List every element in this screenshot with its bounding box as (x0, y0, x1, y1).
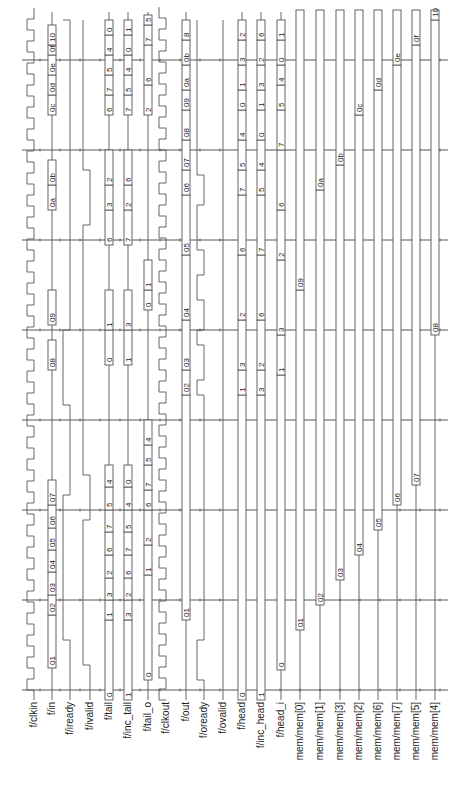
bus-value: 3 (238, 362, 247, 367)
time-grid (22, 59, 448, 692)
bus-value: 1 (257, 692, 266, 697)
bus-value: 7 (105, 87, 114, 92)
bus-value: 1 (124, 357, 133, 362)
bus-value: 01 (296, 618, 305, 627)
bus-value: 4 (124, 502, 133, 507)
bus-value: 08 (48, 358, 57, 367)
bus-value: 2 (105, 570, 114, 575)
bus-value: 03 (182, 358, 191, 367)
bus-value-segment (296, 10, 304, 290)
bus-value: 02 (316, 593, 325, 602)
bus-value: 03 (48, 583, 57, 592)
bus-value: 4 (257, 162, 266, 167)
signal-label: f/inc_head (255, 702, 266, 748)
clock-trace (159, 7, 166, 700)
signal-mem-mem-1-: 020a (316, 10, 325, 700)
signal-f-head-i: 0132675401 (277, 12, 286, 700)
waveform-diagram: 0102030405060708090a0b0c0d0e0f1001326754… (0, 0, 461, 808)
bus-value-segment (144, 575, 152, 680)
level-trace (63, 20, 70, 700)
signal-f-inc-tail: 132675401372675401 (124, 12, 133, 700)
bus-value: 5 (105, 67, 114, 72)
bus-value: 08 (431, 323, 440, 332)
signal-mem-mem-3-: 030b (336, 10, 345, 700)
bus-value: 0b (182, 53, 191, 62)
bus-value: 5 (105, 502, 114, 507)
signal-label: mem/mem[7] (391, 702, 402, 761)
bus-value: 1 (257, 102, 266, 107)
bus-value: 0 (105, 692, 114, 697)
bus-value: 5 (144, 457, 153, 462)
signal-mem-mem-0-: 0109 (296, 10, 305, 700)
bus-value: 0 (257, 132, 266, 137)
bus-value: 3 (105, 202, 114, 207)
bus-value: 0 (124, 479, 133, 484)
bus-value: 07 (412, 473, 421, 482)
signal-mem-mem-2-: 040c (355, 10, 364, 700)
bus-value: 2 (257, 362, 266, 367)
bus-value: 2 (144, 537, 153, 542)
bus-value-segment (124, 620, 132, 700)
bus-value: 1 (105, 612, 114, 617)
signal-f-in: 0102030405060708090a0b0c0d0e0f10 (48, 12, 57, 700)
bus-value: 2 (124, 202, 133, 207)
bus-value: 0e (393, 53, 402, 62)
signal-label: mem/mem[2] (353, 702, 364, 761)
bus-value-segment (277, 210, 285, 260)
bus-value: 2 (277, 252, 286, 257)
bus-value-segment (277, 260, 285, 335)
bus-value: 0d (48, 83, 57, 92)
level-trace (83, 20, 90, 700)
bus-value: 2 (124, 592, 133, 597)
signal-label: mem/mem[6] (372, 702, 383, 761)
bus-value: 03 (336, 568, 345, 577)
bus-value: 10 (431, 8, 440, 17)
bus-value-segment (257, 255, 265, 320)
bus-value: 0 (105, 27, 114, 32)
bus-value-segment (257, 195, 265, 255)
bus-value-segment (257, 395, 265, 700)
bus-value: 05 (182, 243, 191, 252)
signal-mem-mem-6-: 050d (374, 10, 383, 700)
bus-value: 2 (238, 32, 247, 37)
bus-value: 6 (105, 547, 114, 552)
signal-f-inc-head: 132675401326 (257, 12, 266, 700)
signal-label: f/tail (103, 702, 114, 720)
bus-value: 3 (124, 322, 133, 327)
bus-value: 0 (238, 102, 247, 107)
level-trace (197, 20, 204, 700)
bus-value: 3 (257, 82, 266, 87)
bus-value: 3 (277, 327, 286, 332)
bus-value: 5 (124, 524, 133, 529)
bus-value-segment (355, 115, 363, 555)
bus-value: 0 (144, 302, 153, 307)
bus-value-segment (316, 190, 324, 605)
bus-value: 6 (257, 312, 266, 317)
signal-label: f/clkout (160, 702, 171, 734)
bus-value: 4 (238, 132, 247, 137)
bus-value-segment (257, 320, 265, 370)
signal-f-out: 0102030405060708090a0b8 (182, 12, 191, 700)
bus-value: 0a (48, 198, 57, 207)
bus-value: 1 (124, 692, 133, 697)
bus-value: 04 (182, 308, 191, 317)
bus-value: 0 (144, 672, 153, 677)
signal-label: mem/mem[4] (429, 702, 440, 761)
bus-value: 6 (257, 32, 266, 37)
signal-label: f/head_i (275, 702, 286, 738)
bus-value: 0d (374, 78, 383, 87)
bus-value-segment (431, 20, 439, 335)
signal-label: f/head (236, 702, 247, 730)
bus-value: 2 (238, 312, 247, 317)
bus-value: 06 (48, 516, 57, 525)
bus-value: 07 (48, 493, 57, 502)
bus-value: 1 (277, 367, 286, 372)
bus-value: 3 (124, 612, 133, 617)
bus-value: 0e (48, 63, 57, 72)
bus-value: 2 (105, 177, 114, 182)
signal-f-clkout (159, 7, 166, 700)
bus-value: 0b (48, 173, 57, 182)
bus-value-segment (412, 45, 420, 485)
signal-f-ivalid (83, 20, 90, 700)
bus-value: 01 (48, 656, 57, 665)
